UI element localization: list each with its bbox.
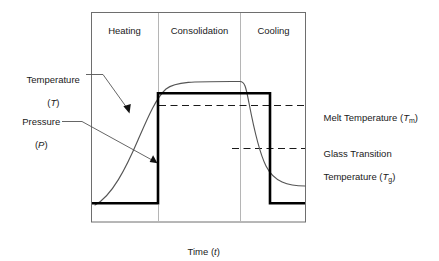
pressure-label-symbol: (P)	[35, 139, 48, 150]
glass-transition-temperature-label: Glass Transition Temperature (Tg)	[313, 136, 435, 195]
x-axis-label-text: Time	[188, 246, 209, 257]
temperature-leader-line	[86, 75, 127, 109]
x-axis-label-symbol: t	[214, 246, 217, 257]
phase-label-cooling: Cooling	[241, 25, 306, 37]
melt-temperature-label-text: Melt Temperature (	[324, 112, 404, 123]
plot-frame	[92, 13, 306, 223]
glass-transition-label-line1: Glass Transition	[324, 148, 392, 159]
glass-transition-paren-close: )	[392, 171, 395, 182]
phase-label-consolidation: Consolidation	[158, 25, 241, 37]
phase-label-heating: Heating	[91, 25, 158, 37]
melt-temperature-subscript: m	[409, 117, 415, 124]
x-axis-label: Time (t)	[91, 234, 306, 261]
glass-transition-label-line2: Temperature (	[323, 171, 382, 182]
melt-temperature-paren-close: )	[415, 112, 418, 123]
pressure-leader-line	[62, 122, 152, 161]
glass-transition-subscript: g	[388, 176, 392, 183]
temperature-label-text: Temperature	[27, 74, 80, 85]
pressure-label: Pressure (P)	[10, 104, 62, 162]
temperature-leader-arrowhead	[123, 104, 130, 113]
pressure-label-text: Pressure	[22, 116, 60, 127]
melt-temperature-label: Melt Temperature (Tm)	[313, 100, 435, 136]
temperature-curve	[95, 81, 305, 205]
